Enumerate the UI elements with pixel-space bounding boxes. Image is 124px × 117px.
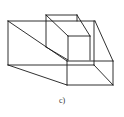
figure-caption: c) [0,96,124,105]
